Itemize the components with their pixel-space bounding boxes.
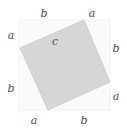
side-label-left-top: a — [8, 30, 15, 41]
pythagorean-diagram: b a a b b a a b c — [0, 0, 127, 132]
side-label-top-right: a — [89, 8, 96, 19]
side-label-right-top: b — [112, 43, 119, 54]
side-label-left-bottom: b — [7, 83, 14, 94]
side-label-bottom-left: a — [31, 115, 38, 126]
side-label-bottom-right: b — [80, 115, 87, 126]
side-label-right-bottom: a — [113, 91, 120, 102]
diagram-canvas — [0, 0, 127, 132]
side-label-top-left: b — [40, 8, 47, 19]
hypotenuse-label-c: c — [52, 36, 58, 47]
